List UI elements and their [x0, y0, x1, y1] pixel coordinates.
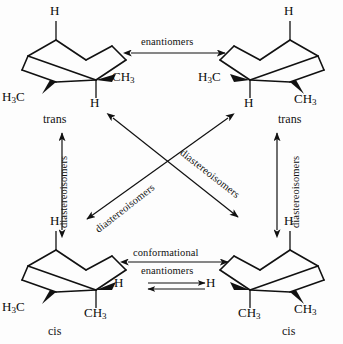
atom-label-h-equatorial-right: H [114, 276, 123, 289]
stereochemistry-diagram: enantiomers diastereoisomers diastereois… [0, 0, 343, 344]
atom-label-h-axial-bottom: H [244, 96, 253, 109]
atom-label-methyl-left: H3C [2, 90, 25, 103]
atom-label-methyl-bottom: CH3 [84, 306, 107, 319]
atom-label-h-axial-top: H [284, 214, 293, 227]
chair-skeleton-top-right [190, 8, 340, 128]
atom-label-h-axial-top: H [284, 4, 293, 17]
chair-skeleton-top-left [8, 8, 158, 128]
atom-label-methyl-left: H3C [2, 300, 25, 313]
atom-label-methyl-right: CH3 [294, 302, 317, 315]
config-label-cis-bottom-right: cis [282, 324, 295, 339]
structure-bottom-right: H H CH3 CH3 cis [190, 218, 340, 338]
config-label-cis-bottom-left: cis [48, 324, 61, 339]
structure-top-right: H H3C CH3 H trans [190, 8, 340, 128]
atom-label-methyl-left: H3C [198, 70, 221, 83]
atom-label-h-equatorial-left: H [206, 276, 215, 289]
atom-label-h-axial-bottom: H [90, 96, 99, 109]
atom-label-h-axial-top: H [50, 214, 59, 227]
config-label-trans-top-right: trans [278, 112, 301, 127]
label-diagonal-tl-br-diastereoisomers: diastereoisomers [178, 147, 242, 200]
structure-top-left: H H3C CH3 H trans [8, 8, 158, 128]
atom-label-methyl-bottom: CH3 [238, 306, 261, 319]
atom-label-methyl-right: CH3 [294, 92, 317, 105]
atom-label-methyl-right: CH3 [112, 70, 135, 83]
structure-bottom-left: H H3C H CH3 cis [8, 218, 158, 338]
atom-label-h-axial-top: H [50, 4, 59, 17]
chair-skeleton-bottom-left [8, 218, 158, 338]
config-label-trans-top-left: trans [43, 112, 66, 127]
